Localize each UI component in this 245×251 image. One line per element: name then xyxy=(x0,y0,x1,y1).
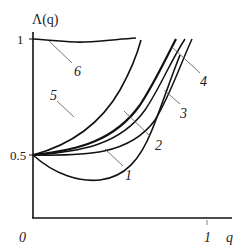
leader-5 xyxy=(57,101,74,117)
y-tick-label-05: 0.5 xyxy=(10,148,26,163)
origin-label: 0 xyxy=(19,230,26,245)
curve-6 xyxy=(33,38,136,42)
curve-label-6: 6 xyxy=(74,64,81,79)
x-axis-label: q xyxy=(226,230,233,245)
leader-1 xyxy=(105,149,123,166)
leader-2 xyxy=(124,111,150,136)
curve-label-4: 4 xyxy=(200,74,207,89)
curve-label-5: 5 xyxy=(50,88,57,103)
chart-canvas: Λ(q) 1 0.5 0 1 q 6 5 4 3 2 1 xyxy=(0,0,245,251)
y-tick-label-1: 1 xyxy=(17,32,24,47)
curve-label-1: 1 xyxy=(125,168,132,183)
leader-6 xyxy=(49,41,72,63)
curve-label-2: 2 xyxy=(155,138,162,153)
x-tick-label-1: 1 xyxy=(204,230,211,245)
curve-label-3: 3 xyxy=(179,106,187,121)
y-axis-label: Λ(q) xyxy=(32,12,59,28)
